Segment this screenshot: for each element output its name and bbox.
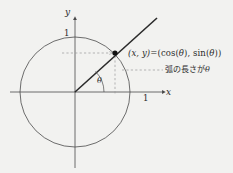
equation-middle: ), sin( [184, 48, 209, 58]
y-axis-label: y [65, 8, 70, 17]
equation-close: )) [215, 48, 222, 58]
figure-canvas [0, 0, 233, 173]
arc-length-theta: θ [205, 65, 210, 74]
unit-circle-figure: y x 1 1 θ (x, y)=(cos(θ), sin(θ)) 弧の長さがθ [0, 0, 233, 173]
x-axis-tick-one: 1 [143, 94, 148, 103]
point-coordinates-equation: (x, y)=(cos(θ), sin(θ)) [128, 49, 221, 58]
arc-length-text: 弧の長さが [165, 65, 205, 74]
equation-lhs: (x, y) [128, 48, 150, 58]
arc-length-annotation: 弧の長さがθ [165, 66, 210, 74]
theta-angle-label: θ [97, 77, 102, 85]
y-axis-tick-one: 1 [64, 29, 69, 38]
point-marker [112, 50, 117, 55]
equation-rhs-open: (cos( [157, 48, 178, 58]
x-axis-label: x [166, 88, 171, 97]
